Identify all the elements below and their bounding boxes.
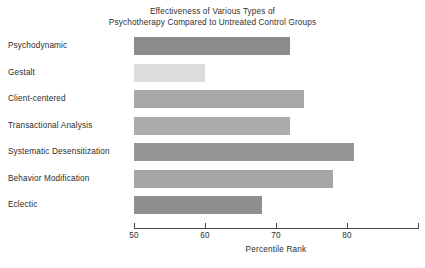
x-tick bbox=[418, 223, 419, 229]
bar-label-gestalt: Gestalt bbox=[8, 60, 35, 86]
chart-title-line-2: Psychotherapy Compared to Untreated Cont… bbox=[0, 17, 425, 28]
bar-label-psychodynamic: Psychodynamic bbox=[8, 33, 67, 59]
x-axis: Percentile Rank 50607080 bbox=[0, 228, 425, 268]
bar-psychodynamic bbox=[134, 37, 290, 55]
chart-title: Effectiveness of Various Types of Psycho… bbox=[0, 6, 425, 28]
bar-eclectic bbox=[134, 196, 262, 214]
chart-row: Client-centered bbox=[0, 86, 425, 112]
bar-client-centered bbox=[134, 90, 304, 108]
plot-area: PsychodynamicGestaltClient-centeredTrans… bbox=[0, 33, 425, 228]
chart-row: Gestalt bbox=[0, 60, 425, 86]
x-tick-label: 50 bbox=[129, 231, 139, 240]
bar-behavior-modification bbox=[134, 170, 333, 188]
bar-gestalt bbox=[134, 64, 205, 82]
x-tick-label: 80 bbox=[342, 231, 352, 240]
bar-label-systematic-desensitization: Systematic Desensitization bbox=[8, 139, 110, 165]
bar-label-behavior-modification: Behavior Modification bbox=[8, 166, 89, 192]
x-axis-title: Percentile Rank bbox=[134, 245, 418, 254]
chart-row: Systematic Desensitization bbox=[0, 139, 425, 165]
bar-label-eclectic: Eclectic bbox=[8, 192, 37, 218]
bar-systematic-desensitization bbox=[134, 143, 354, 161]
chart-title-line-1: Effectiveness of Various Types of bbox=[0, 6, 425, 17]
bar-transactional-analysis bbox=[134, 117, 290, 135]
chart-row: Psychodynamic bbox=[0, 33, 425, 59]
bar-label-client-centered: Client-centered bbox=[8, 86, 66, 112]
chart-container: Effectiveness of Various Types of Psycho… bbox=[0, 0, 425, 268]
x-tick bbox=[205, 223, 206, 229]
x-tick-label: 70 bbox=[271, 231, 281, 240]
x-tick bbox=[276, 223, 277, 229]
x-tick bbox=[134, 223, 135, 229]
x-tick-label: 60 bbox=[200, 231, 210, 240]
chart-row: Behavior Modification bbox=[0, 166, 425, 192]
chart-row: Transactional Analysis bbox=[0, 113, 425, 139]
x-tick bbox=[347, 223, 348, 229]
chart-row: Eclectic bbox=[0, 192, 425, 218]
bar-label-transactional-analysis: Transactional Analysis bbox=[8, 113, 92, 139]
